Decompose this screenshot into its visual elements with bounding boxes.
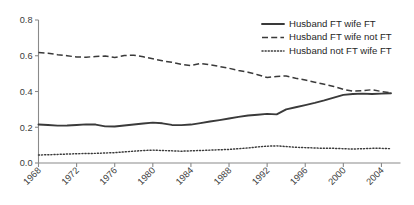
x-tick-label: 1972: [59, 165, 81, 187]
legend-label-2: Husband not FT wife FT: [289, 45, 392, 56]
x-tick-label: 1984: [174, 165, 196, 187]
legend-label-1: Husband FT wife not FT: [289, 31, 392, 42]
y-tick-label: 0.2: [20, 123, 33, 133]
legend-label-0: Husband FT wife FT: [289, 18, 376, 29]
x-tick-label: 1980: [136, 165, 158, 187]
series-line-1: [39, 53, 391, 93]
x-tick-label: 2004: [364, 165, 386, 187]
x-axis: 1968197219761980198419881992199620002004: [21, 163, 400, 187]
line-chart: 0.00.20.40.60.8 196819721976198019841988…: [0, 0, 414, 205]
chart-legend: Husband FT wife FTHusband FT wife not FT…: [262, 18, 392, 56]
y-tick-label: 0.0: [20, 158, 33, 168]
series-layer: [39, 53, 391, 155]
y-tick-label: 0.4: [20, 87, 33, 97]
x-tick-label: 1996: [288, 165, 310, 187]
y-tick-label: 0.8: [20, 15, 33, 25]
x-tick-label: 1968: [21, 165, 43, 187]
x-tick-label: 1992: [250, 165, 272, 187]
chart-container: 0.00.20.40.60.8 196819721976198019841988…: [0, 0, 414, 205]
y-axis: 0.00.20.40.60.8: [20, 15, 39, 168]
x-tick-label: 1988: [212, 165, 234, 187]
x-tick-label: 1976: [98, 165, 120, 187]
series-line-2: [39, 146, 391, 155]
x-tick-label: 2000: [326, 165, 348, 187]
series-line-0: [39, 93, 391, 126]
y-tick-label: 0.6: [20, 51, 33, 61]
